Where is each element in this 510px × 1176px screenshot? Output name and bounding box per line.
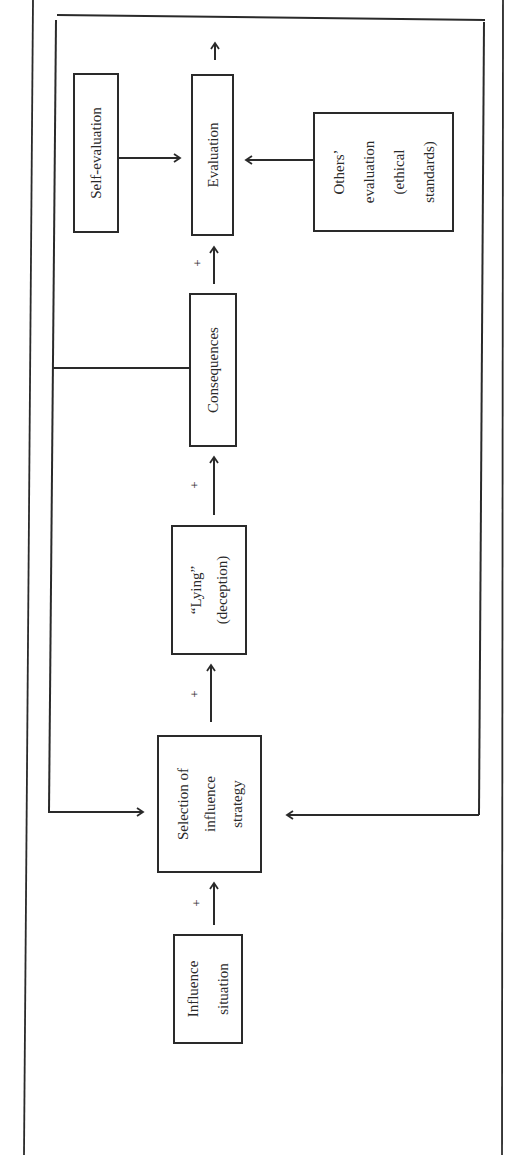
evaluation-label: Evaluation (204, 123, 221, 188)
others-evaluation-line3: (ethical (384, 141, 414, 203)
self-evaluation-box: Self-evaluation (73, 73, 119, 233)
evaluation-box: Evaluation (191, 74, 234, 236)
consequences-box: Consequences (189, 293, 237, 447)
influence-situation-line1: Influence (178, 961, 208, 1018)
selection-line3: strategy (223, 768, 250, 840)
plus-label-consequences-evaluation: + (190, 257, 206, 269)
others-evaluation-line1: Others’ (324, 141, 354, 203)
influence-situation-box: Influence situation (173, 934, 243, 1044)
lying-line1: “Lying” (183, 556, 209, 624)
others-evaluation-line2: evaluation (354, 141, 384, 203)
selection-line1: Selection of (169, 768, 196, 840)
others-evaluation-line4: standards) (414, 141, 444, 203)
selection-strategy-box: Selection of influence strategy (157, 735, 262, 873)
selection-line2: influence (196, 768, 223, 840)
lying-line2: (deception) (209, 556, 235, 624)
consequences-label: Consequences (205, 327, 222, 413)
plus-label-lying-consequences: + (187, 479, 203, 491)
self-evaluation-label: Self-evaluation (88, 107, 105, 199)
others-evaluation-box: Others’ evaluation (ethical standards) (313, 112, 454, 232)
plus-label-selection-lying: + (187, 688, 203, 700)
plus-label-situation-selection: + (189, 897, 205, 909)
lying-box: “Lying” (deception) (171, 525, 247, 655)
influence-situation-line2: situation (208, 961, 238, 1018)
